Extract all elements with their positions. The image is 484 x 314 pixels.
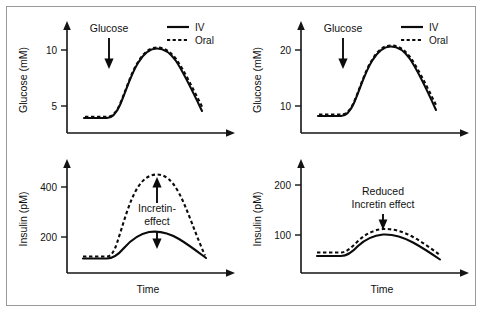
panel-glucose-diabetes: 10 20 Glucose (mM) Glucose IV Oral bbox=[241, 7, 477, 153]
curve-iv bbox=[317, 234, 440, 259]
curve-oral bbox=[85, 48, 203, 117]
panel-glucose-healthy: 5 10 Glucose (mM) Glucose IV Oral bbox=[7, 7, 243, 153]
panel-insulin-diabetes: 100 200 Insulin (pM) Reduced Incretin ef… bbox=[241, 151, 477, 307]
legend-label-oral: Oral bbox=[195, 35, 214, 46]
legend: IV Oral bbox=[401, 22, 448, 46]
x-axis bbox=[67, 129, 235, 137]
y-tick-label-1: 200 bbox=[274, 180, 291, 191]
y-axis bbox=[63, 159, 71, 273]
reduced-incretin-label-line1: Reduced bbox=[362, 185, 404, 197]
x-axis-title: Time bbox=[371, 283, 394, 295]
x-axis bbox=[301, 269, 469, 277]
incretin-effect-label-line2: effect bbox=[144, 215, 170, 227]
y-tick-label-0: 200 bbox=[40, 232, 57, 243]
y-axis bbox=[297, 21, 305, 133]
glucose-arrow-annotation: Glucose bbox=[90, 22, 129, 69]
y-ticks bbox=[295, 185, 301, 235]
y-axis-title: Insulin (pM) bbox=[17, 192, 29, 247]
glucose-annotation-label: Glucose bbox=[90, 22, 129, 34]
y-tick-label-0: 100 bbox=[274, 230, 291, 241]
y-axis-title: Glucose (mM) bbox=[251, 47, 263, 113]
curve-iv bbox=[83, 232, 206, 259]
glucose-annotation-label: Glucose bbox=[324, 22, 363, 34]
curve-iv bbox=[84, 49, 202, 119]
y-axis-title: Glucose (mM) bbox=[17, 47, 29, 113]
y-tick-label-0: 5 bbox=[51, 101, 57, 112]
legend: IV Oral bbox=[167, 22, 214, 46]
legend-label-iv: IV bbox=[195, 22, 205, 33]
y-axis-title: Insulin (pM) bbox=[251, 192, 263, 247]
legend-label-iv: IV bbox=[429, 22, 439, 33]
curve-iv bbox=[318, 47, 436, 117]
legend-label-oral: Oral bbox=[429, 35, 448, 46]
panel-insulin-healthy: 200 400 Insulin (pM) Incretin- effect Ti… bbox=[7, 151, 243, 307]
x-axis bbox=[301, 129, 469, 137]
reduced-incretin-effect-annotation: Reduced Incretin effect bbox=[352, 185, 415, 230]
y-axis bbox=[297, 159, 305, 273]
figure-frame: 5 10 Glucose (mM) Glucose IV Oral bbox=[6, 6, 476, 306]
incretin-effect-label-line1: Incretin- bbox=[138, 202, 176, 214]
y-ticks bbox=[295, 50, 301, 106]
x-axis bbox=[67, 269, 235, 277]
y-axis bbox=[63, 21, 71, 133]
reduced-incretin-label-line2: Incretin effect bbox=[352, 198, 415, 210]
x-axis-title: Time bbox=[137, 283, 160, 295]
curve-oral bbox=[319, 46, 437, 115]
y-tick-label-0: 10 bbox=[280, 101, 292, 112]
y-tick-label-1: 400 bbox=[40, 182, 57, 193]
incretin-effect-annotation: Incretin- effect bbox=[138, 177, 176, 249]
glucose-arrow-annotation: Glucose bbox=[324, 22, 363, 69]
y-ticks bbox=[61, 50, 67, 106]
y-tick-label-1: 20 bbox=[280, 45, 292, 56]
curve-oral bbox=[317, 229, 440, 255]
y-tick-label-1: 10 bbox=[46, 45, 58, 56]
y-ticks bbox=[61, 187, 67, 237]
